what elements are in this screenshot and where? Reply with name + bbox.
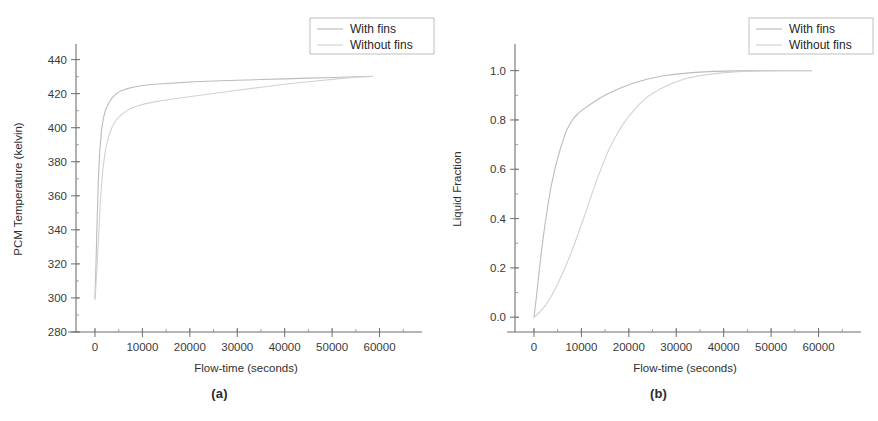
x-axis-title: Flow-time (seconds) [194, 362, 298, 374]
y-tick-label: 320 [48, 258, 67, 270]
y-tick-label: 300 [48, 292, 67, 304]
figure-container: 2803003203403603804004204400100002000030… [0, 0, 878, 421]
legend-label-0: With fins [350, 22, 396, 36]
y-tick-label: 400 [48, 122, 67, 134]
y-tick-label: 280 [48, 326, 67, 338]
y-tick-label: 420 [48, 88, 67, 100]
series-line-with-fins [534, 71, 811, 318]
y-tick-label: 340 [48, 224, 67, 236]
series-line-without-fins [95, 76, 372, 299]
y-tick-label: 360 [48, 190, 67, 202]
y-tick-label: 0.0 [490, 311, 506, 323]
y-tick-label: 0.2 [490, 262, 506, 274]
x-tick-label: 50000 [316, 341, 348, 353]
y-axis-title: Liquid Fraction [451, 151, 463, 226]
y-tick-label: 440 [48, 54, 67, 66]
chart-a: 2803003203403603804004204400100002000030… [0, 0, 439, 386]
x-tick-label: 30000 [660, 341, 692, 353]
panel-a: 2803003203403603804004204400100002000030… [0, 0, 439, 421]
legend-label-1: Without fins [789, 38, 852, 52]
y-tick-label: 1.0 [490, 65, 506, 77]
x-tick-label: 10000 [126, 341, 158, 353]
x-axis-title: Flow-time (seconds) [633, 362, 737, 374]
y-tick-label: 0.6 [490, 163, 506, 175]
x-tick-label: 10000 [565, 341, 597, 353]
series-line-without-fins [534, 71, 811, 318]
x-tick-label: 60000 [364, 341, 396, 353]
legend-label-0: With fins [789, 22, 835, 36]
legend-label-1: Without fins [350, 38, 413, 52]
y-tick-label: 0.4 [490, 213, 507, 225]
panel-b-caption: (b) [439, 386, 878, 401]
x-tick-label: 0 [92, 341, 98, 353]
x-tick-label: 20000 [613, 341, 645, 353]
panel-a-caption: (a) [0, 386, 439, 401]
x-tick-label: 40000 [708, 341, 740, 353]
x-tick-label: 60000 [803, 341, 835, 353]
x-tick-label: 0 [531, 341, 537, 353]
y-tick-label: 0.8 [490, 114, 506, 126]
chart-b: 0.00.20.40.60.81.00100002000030000400005… [439, 0, 878, 386]
y-axis-title: PCM Temperature (kelvin) [12, 122, 24, 256]
x-tick-label: 50000 [755, 341, 787, 353]
y-tick-label: 380 [48, 156, 67, 168]
x-tick-label: 30000 [221, 341, 253, 353]
panel-b: 0.00.20.40.60.81.00100002000030000400005… [439, 0, 878, 421]
x-tick-label: 20000 [174, 341, 206, 353]
x-tick-label: 40000 [269, 341, 301, 353]
series-line-with-fins [95, 76, 372, 298]
